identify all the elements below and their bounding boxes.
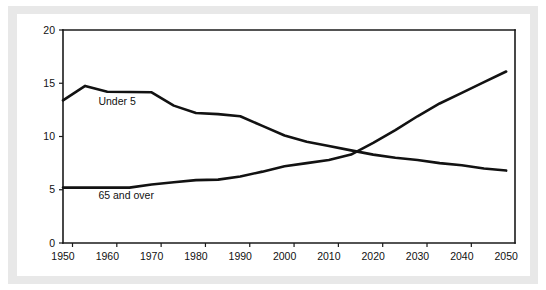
chart-figure: 1950196019701980199020002010202020302040… <box>0 0 546 290</box>
x-tick-label: 2050 <box>494 250 518 262</box>
x-tick-label: 2000 <box>273 250 297 262</box>
x-tick-label: 1950 <box>51 250 75 262</box>
y-tick-label: 0 <box>49 237 55 249</box>
x-tick-label: 1990 <box>229 250 253 262</box>
x-tick-label: 1970 <box>140 250 164 262</box>
y-tick-label: 15 <box>43 77 55 89</box>
x-tick-label: 2010 <box>317 250 341 262</box>
x-tick-label: 1980 <box>184 250 208 262</box>
x-tick-label: 2040 <box>450 250 474 262</box>
x-tick-label: 1960 <box>96 250 120 262</box>
x-tick-label: 2020 <box>362 250 386 262</box>
x-axis-tick-labels: 1950196019701980199020002010202020302040… <box>51 250 518 262</box>
series-label-65-and-over: 65 and over <box>98 189 154 201</box>
y-tick-label: 20 <box>43 24 55 36</box>
y-tick-label: 5 <box>49 183 55 195</box>
data-series-lines <box>63 72 506 188</box>
x-tick-label: 2030 <box>406 250 430 262</box>
series-label-under-5: Under 5 <box>98 95 136 107</box>
y-tick-label: 10 <box>43 130 55 142</box>
line-chart: 1950196019701980199020002010202020302040… <box>0 0 546 290</box>
y-axis-tick-labels: 05101520 <box>43 24 55 249</box>
series-line-65-and-over <box>63 72 506 188</box>
